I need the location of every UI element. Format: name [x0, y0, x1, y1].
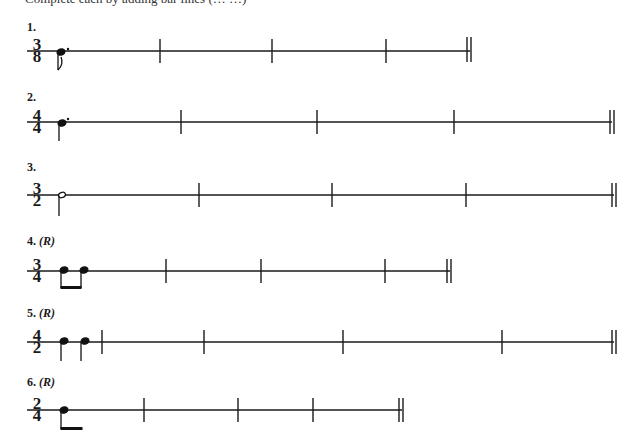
staff-1: [27, 37, 471, 63]
note-dotted-quarter: [57, 118, 69, 141]
staff-3: [27, 183, 616, 207]
staff-2: [27, 110, 614, 134]
note-beamed-eighths: [59, 266, 89, 289]
note-half: [58, 191, 66, 216]
staff-6: [27, 398, 403, 422]
note-quarters: [59, 337, 90, 361]
rhythm-staves: [0, 0, 637, 448]
staff-5: [27, 330, 616, 354]
staff-4: [27, 259, 451, 283]
